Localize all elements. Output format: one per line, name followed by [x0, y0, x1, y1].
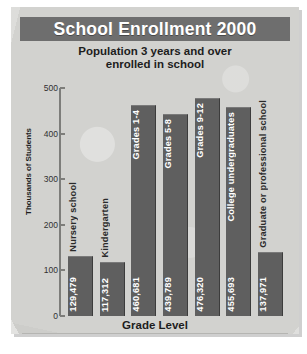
- bar[interactable]: 129,479: [68, 256, 93, 316]
- chart-subtitle-line-1: Population 3 years and over: [20, 45, 290, 58]
- plot-area: 129,479Nursery school117,312Kindergarten…: [61, 88, 289, 316]
- bar-group: 117,312Kindergarten: [100, 88, 124, 316]
- bar-value-label: 129,479: [68, 277, 92, 312]
- bar-group: 129,479Nursery school: [68, 88, 92, 316]
- bar-category-label: Grades 5-8: [163, 119, 187, 169]
- chart-panel: School Enrollment 2000 Population 3 year…: [11, 7, 299, 334]
- bar-category-label: Grades 1-4: [131, 110, 155, 160]
- x-axis-rule: [22, 333, 288, 334]
- bar-value-label: 476,320: [195, 277, 219, 312]
- bar-category-label: Kindergarten: [100, 198, 124, 258]
- bar-value-label: 455,693: [226, 277, 250, 312]
- y-axis-tick: 200: [27, 220, 65, 230]
- bar-category-label: Graduate or professional school: [258, 100, 282, 248]
- chart-title-bar: School Enrollment 2000: [20, 17, 290, 41]
- bar[interactable]: 137,971: [258, 252, 283, 316]
- y-axis-title: Thousands of Students: [24, 107, 33, 237]
- bar-value-label: 460,681: [131, 277, 155, 312]
- bar-group: 460,681Grades 1-4: [131, 88, 155, 316]
- y-axis-tick: 100: [27, 265, 65, 275]
- y-axis-tick-label: 400: [44, 129, 58, 139]
- y-axis-tick-label: 500: [44, 83, 58, 93]
- y-axis-tick-label: 300: [44, 174, 58, 184]
- y-axis-tick: 500: [27, 83, 65, 93]
- bar-category-label: Grades 9-12: [195, 103, 219, 158]
- x-axis-title: Grade Level: [20, 319, 290, 331]
- bar-value-label: 117,312: [100, 278, 124, 312]
- bar-group: 137,971Graduate or professional school: [258, 88, 282, 316]
- y-axis-tick: 300: [27, 174, 65, 184]
- chart-subtitle: Population 3 years and over enrolled in …: [20, 45, 290, 71]
- bar-group: 476,320Grades 9-12: [195, 88, 219, 316]
- bar-value-label: 439,789: [163, 277, 187, 312]
- y-axis-tick: 400: [27, 129, 65, 139]
- chart-title: School Enrollment 2000: [54, 19, 257, 40]
- bar-category-label: College undergraduates: [226, 112, 250, 222]
- bar-value-label: 137,971: [258, 277, 282, 312]
- bar[interactable]: 117,312: [100, 262, 125, 316]
- bar-group: 439,789Grades 5-8: [163, 88, 187, 316]
- bar-category-label: Nursery school: [68, 182, 92, 252]
- y-axis-tick-label: 200: [44, 220, 58, 230]
- chart-subtitle-line-2: enrolled in school: [20, 58, 290, 71]
- bar-group: 455,693College undergraduates: [226, 88, 250, 316]
- y-axis-tick-label: 100: [44, 265, 58, 275]
- chart-figure: School Enrollment 2000 Population 3 year…: [0, 0, 307, 354]
